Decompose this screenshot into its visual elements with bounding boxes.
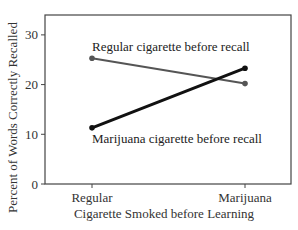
series-line-0 [92,58,245,83]
data-point [242,65,248,71]
y-tick-label: 20 [25,77,38,92]
series-annotation: Marijuana cigarette before recall [92,131,262,146]
line-chart: 0102030RegularMarijuanaCigarette Smoked … [0,0,298,230]
y-tick-label: 30 [25,27,38,42]
y-tick-label: 0 [32,177,39,192]
series-line-1 [92,68,245,128]
series-annotation: Regular cigarette before recall [92,39,250,54]
y-tick-label: 10 [25,127,38,142]
data-point [89,125,95,131]
y-axis-title: Percent of Words Correctly Recalled [5,22,20,213]
data-point [89,55,95,61]
x-tick-label: Marijuana [218,190,272,205]
x-axis-title: Cigarette Smoked before Learning [74,206,255,221]
data-point [242,81,248,87]
x-tick-label: Regular [71,190,113,205]
